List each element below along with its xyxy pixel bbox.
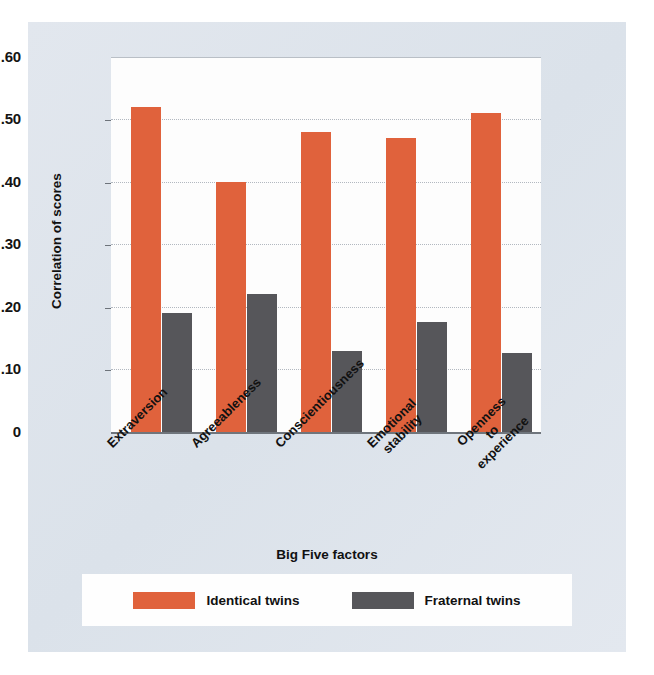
bar-identical-emotional-stability[interactable] <box>386 138 416 432</box>
bar-group-extraversion <box>131 57 195 432</box>
x-axis-title: Big Five factors <box>28 547 626 562</box>
legend-swatch-identical <box>133 592 195 609</box>
ytick-label-050: .50 <box>0 110 21 127</box>
ytick-label-030: .30 <box>0 235 21 252</box>
bar-identical-openness[interactable] <box>471 113 501 432</box>
tick-020 <box>105 308 111 309</box>
bar-group-emotional-stability <box>386 57 450 432</box>
bar-fraternal-agreeableness[interactable] <box>247 294 277 432</box>
ytick-label-060: .60 <box>0 48 21 65</box>
tick-050 <box>105 120 111 121</box>
y-axis-title: Correlation of scores <box>49 173 64 309</box>
chart-figure: .60 .50 .40 .30 .20 .10 0 Correlation of… <box>28 22 626 652</box>
legend-item-identical-twins[interactable]: Identical twins <box>133 592 299 609</box>
ytick-label-020: .20 <box>0 298 21 315</box>
legend-swatch-fraternal <box>352 592 414 609</box>
tick-010 <box>105 370 111 371</box>
ytick-label-0: 0 <box>0 423 21 440</box>
tick-030 <box>105 245 111 246</box>
bar-identical-extraversion[interactable] <box>131 107 161 432</box>
tick-040 <box>105 183 111 184</box>
bar-fraternal-extraversion[interactable] <box>162 313 192 432</box>
ytick-label-040: .40 <box>0 173 21 190</box>
legend-item-fraternal-twins[interactable]: Fraternal twins <box>352 592 521 609</box>
legend-label-fraternal: Fraternal twins <box>425 593 521 608</box>
bar-group-agreeableness <box>216 57 280 432</box>
plot-area: .60 .50 .40 .30 .20 .10 0 Correlation of… <box>111 57 541 432</box>
bar-group-openness <box>471 57 535 432</box>
chart-legend: Identical twins Fraternal twins <box>82 574 572 626</box>
ytick-label-010: .10 <box>0 360 21 377</box>
legend-label-identical: Identical twins <box>206 593 299 608</box>
